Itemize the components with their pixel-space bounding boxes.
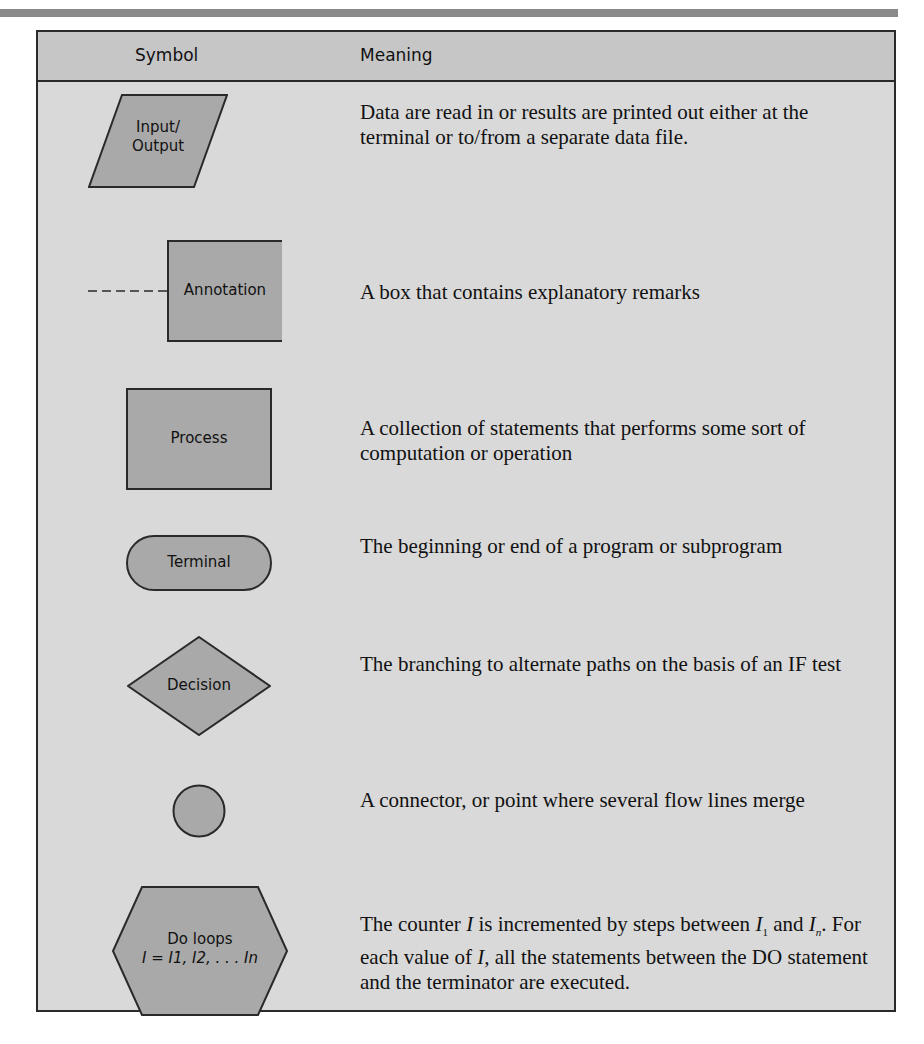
- header-meaning: Meaning: [360, 45, 433, 65]
- meaning-do-loops: The counter I is incremented by steps be…: [360, 912, 870, 995]
- header-symbol: Symbol: [135, 45, 198, 65]
- process-label: Process: [126, 429, 272, 448]
- variable-in: I: [809, 912, 816, 936]
- annotation-bracket-icon: Annotation: [88, 240, 283, 344]
- terminal-label: Terminal: [126, 553, 272, 572]
- input-output-label-line2: Output: [88, 137, 228, 156]
- meaning-annotation: A box that contains explanatory remarks: [360, 280, 870, 305]
- meaning-process: A collection of statements that performs…: [360, 416, 870, 466]
- do-loops-label-line2: I = I1, I2, . . . In: [112, 949, 288, 968]
- connector-circle-icon: [172, 784, 226, 838]
- do-loops-label-line1: Do loops: [112, 930, 288, 949]
- do-loop-hexagon-icon: Do loops I = I1, I2, . . . In: [112, 886, 288, 1016]
- meaning-terminal: The beginning or end of a program or sub…: [360, 534, 870, 559]
- decision-diamond-icon: Decision: [127, 636, 271, 736]
- meaning-input-output: Data are read in or results are printed …: [360, 100, 870, 150]
- meaning-text: is incremented by steps between: [473, 912, 755, 936]
- meaning-text: and: [768, 912, 809, 936]
- meaning-decision: The branching to alternate paths on the …: [360, 652, 870, 677]
- input-output-parallelogram-icon: Input/ Output: [88, 94, 228, 188]
- annotation-label: Annotation: [168, 281, 282, 300]
- table-header: Symbol Meaning: [38, 32, 894, 82]
- meaning-connector: A connector, or point where several flow…: [360, 788, 870, 813]
- decision-label: Decision: [127, 676, 271, 695]
- variable-i: I,: [477, 945, 489, 969]
- input-output-label-line1: Input/: [88, 118, 228, 137]
- flowchart-symbol-table: Symbol Meaning Input/ Output Data are re…: [36, 30, 896, 1012]
- meaning-text: The counter: [360, 912, 466, 936]
- terminal-rounded-icon: Terminal: [126, 535, 272, 591]
- process-rectangle-icon: Process: [126, 388, 272, 490]
- top-rule: [0, 9, 898, 17]
